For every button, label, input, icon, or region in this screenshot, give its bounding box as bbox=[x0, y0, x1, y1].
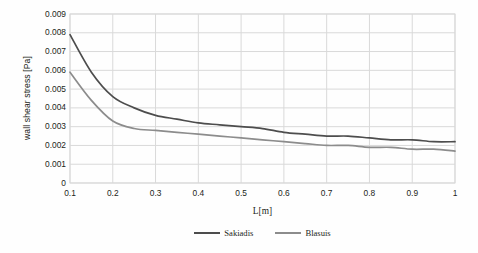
plot-border bbox=[70, 14, 455, 183]
legend-item[interactable]: Sakiadis bbox=[194, 228, 253, 238]
x-axis-title: L[m] bbox=[70, 206, 455, 216]
legend-label: Sakiadis bbox=[224, 228, 253, 238]
series-line-sakiadis bbox=[70, 35, 455, 142]
chart-figure: wall shear stress [Pa] 0.0090.0080.0070.… bbox=[0, 0, 478, 253]
data-series bbox=[70, 35, 455, 151]
legend-label: Blasuis bbox=[305, 228, 330, 238]
gridlines bbox=[70, 14, 455, 183]
legend-swatch-icon bbox=[194, 232, 220, 234]
chart-legend: SakiadisBlasuis bbox=[70, 228, 455, 238]
legend-item[interactable]: Blasuis bbox=[275, 228, 330, 238]
legend-swatch-icon bbox=[275, 232, 301, 234]
